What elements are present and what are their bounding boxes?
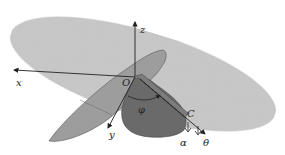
label-alpha: α: [180, 137, 187, 148]
label-point-c: C: [187, 108, 195, 119]
label-z: z: [139, 24, 146, 35]
label-phi: φ: [138, 104, 145, 115]
label-origin: O: [122, 77, 130, 88]
label-theta: θ: [203, 137, 209, 148]
label-x: x: [16, 77, 22, 88]
geometry-diagram: x y z O φ C α θ: [0, 0, 285, 155]
label-y: y: [108, 129, 115, 140]
diagram-canvas: x y z O φ C α θ: [0, 0, 285, 155]
